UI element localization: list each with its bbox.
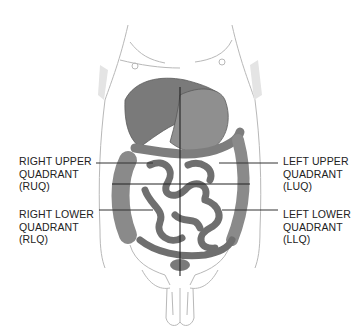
descending-colon bbox=[232, 140, 243, 240]
label-line: QUADRANT bbox=[19, 221, 94, 234]
ascending-colon bbox=[121, 160, 129, 235]
label-right-lower-quadrant: RIGHT LOWER QUADRANT (RLQ) bbox=[19, 208, 94, 246]
label-abbrev: (LLQ) bbox=[283, 233, 351, 246]
label-abbrev: (RLQ) bbox=[19, 233, 94, 246]
label-abbrev: (RUQ) bbox=[19, 180, 92, 193]
label-line: RIGHT UPPER bbox=[19, 155, 92, 168]
label-line: RIGHT LOWER bbox=[19, 208, 94, 221]
label-line: QUADRANT bbox=[283, 221, 351, 234]
label-left-lower-quadrant: LEFT LOWER QUADRANT (LLQ) bbox=[283, 208, 351, 246]
small-intestine bbox=[140, 163, 232, 256]
label-line: LEFT LOWER bbox=[283, 208, 351, 221]
label-left-upper-quadrant: LEFT UPPER QUADRANT (LUQ) bbox=[283, 155, 349, 193]
label-line: QUADRANT bbox=[19, 168, 92, 181]
label-abbrev: (LUQ) bbox=[283, 180, 349, 193]
label-right-upper-quadrant: RIGHT UPPER QUADRANT (RUQ) bbox=[19, 155, 92, 193]
label-line: LEFT UPPER bbox=[283, 155, 349, 168]
label-line: QUADRANT bbox=[283, 168, 349, 181]
